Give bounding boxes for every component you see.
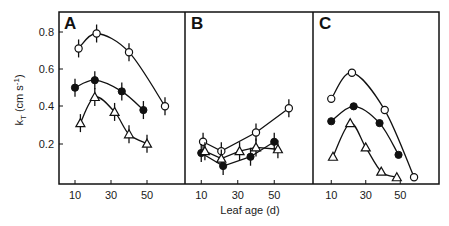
filled-circle-marker (140, 106, 147, 113)
x-tick-label: 30 (105, 189, 117, 201)
data-series (71, 25, 417, 181)
open-circle-marker (75, 45, 82, 52)
filled-circle-marker (271, 138, 278, 145)
open-circle-marker (328, 95, 335, 102)
filled-circle-marker (328, 118, 335, 125)
x-tick-label: 50 (141, 189, 153, 201)
figure: 0.8 0.6 0.4 0.2 kT (cm s-1) 103050103050… (0, 0, 449, 226)
filled-circle-marker (220, 162, 227, 169)
x-axis-title: Leaf age (d) (220, 204, 279, 216)
x-tick-label: 50 (394, 189, 406, 201)
y-tick-label: 0.6 (39, 63, 54, 75)
panel-label-b: B (191, 14, 203, 33)
open-circle-marker (252, 129, 259, 136)
open-triangle-marker (361, 143, 370, 151)
open-circle-marker (199, 138, 206, 145)
x-tick-label: 10 (325, 189, 337, 201)
open-triangle-marker (143, 139, 152, 147)
open-triangle-marker (252, 143, 261, 151)
filled-circle-marker (91, 77, 98, 84)
filled-circle-marker (395, 151, 402, 158)
filled-circle-marker (376, 120, 383, 127)
open-circle-marker (125, 49, 132, 56)
y-tick-label: 0.2 (39, 138, 54, 150)
x-tick-label: 50 (268, 189, 280, 201)
y-tick-label: 0.8 (39, 26, 54, 38)
panel-label-a: A (64, 14, 76, 33)
open-circle-marker (161, 103, 168, 110)
x-tick-label: 10 (195, 189, 207, 201)
open-triangle-marker (328, 152, 337, 160)
series-line-open-circle (331, 73, 414, 178)
open-circle-marker (410, 174, 417, 181)
x-axis: 103050103050103050 (69, 180, 407, 201)
x-tick-label: 30 (360, 189, 372, 201)
open-circle-marker (93, 30, 100, 37)
filled-circle-marker (247, 153, 254, 160)
filled-circle-marker (118, 88, 125, 95)
x-tick-label: 10 (69, 189, 81, 201)
open-triangle-marker (217, 154, 226, 162)
open-circle-marker (381, 106, 388, 113)
open-circle-marker (285, 105, 292, 112)
y-axis-title: kT (cm s-1) (12, 74, 28, 125)
x-tick-label: 30 (232, 189, 244, 201)
filled-circle-marker (350, 103, 357, 110)
open-triangle-marker (346, 119, 355, 127)
open-triangle-marker (76, 119, 85, 127)
y-tick-label: 0.4 (39, 100, 54, 112)
panel-label-c: C (319, 14, 331, 33)
open-circle-marker (348, 69, 355, 76)
filled-circle-marker (71, 84, 78, 91)
